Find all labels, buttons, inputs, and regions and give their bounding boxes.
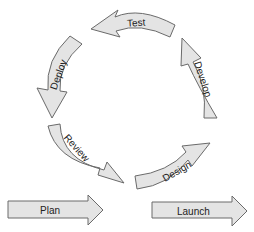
develop-arrow: Develop	[181, 38, 217, 118]
test-arrow: Test	[91, 10, 175, 37]
deploy-arrow: Deploy	[37, 36, 82, 118]
design-arrow: Design	[135, 143, 210, 189]
test-label: Test	[127, 16, 146, 28]
review-arrow: Review	[48, 124, 124, 183]
launch-label: Launch	[177, 206, 210, 217]
launch-arrow: Launch	[152, 196, 247, 226]
plan-arrow: Plan	[8, 195, 103, 225]
plan-label: Plan	[40, 205, 60, 216]
lifecycle-diagram: Test Deploy Develop Review Design Plan L…	[0, 0, 254, 232]
